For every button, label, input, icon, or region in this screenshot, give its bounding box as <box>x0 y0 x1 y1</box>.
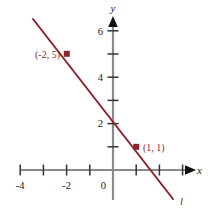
x-axis-group <box>21 165 196 175</box>
y-axis-group <box>108 16 118 200</box>
y-tick-label-6: 6 <box>98 26 103 37</box>
line-l <box>33 19 173 199</box>
x-axis-label: x <box>196 164 202 176</box>
y-tick-label-2: 2 <box>98 118 103 129</box>
x-tick-label--2: -2 <box>62 180 71 191</box>
y-tick-label-4: 4 <box>98 72 104 83</box>
graph-canvas: x y 0 -4 -2 6 4 2 (-2, 5) (1, 1) l <box>0 0 211 219</box>
x-tick-label--4: -4 <box>16 180 25 191</box>
x-axis-arrowhead <box>185 165 196 175</box>
point-label-a: (-2, 5) <box>35 49 60 61</box>
data-point-marker-b <box>133 144 139 150</box>
point-label-b: (1, 1) <box>143 142 165 154</box>
line-name-label: l <box>180 195 183 207</box>
coordinate-plane-figure: x y 0 -4 -2 6 4 2 (-2, 5) (1, 1) l <box>0 0 211 219</box>
origin-label: 0 <box>101 180 106 191</box>
y-axis-arrowhead <box>108 16 118 27</box>
y-axis-label: y <box>110 2 116 14</box>
data-point-marker-a <box>64 51 70 57</box>
